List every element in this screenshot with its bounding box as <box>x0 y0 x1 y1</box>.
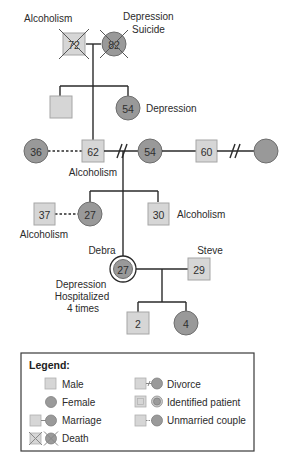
steve-name: Steve <box>197 245 223 256</box>
female-circle-icon <box>46 397 57 408</box>
steve-age: 29 <box>193 264 205 276</box>
debra-label-line3: 4 times <box>67 303 99 314</box>
father-label: Alcoholism <box>69 167 117 178</box>
grandfather-node: 72 <box>59 29 89 59</box>
legend-label-identified-patient: Identified patient <box>167 397 241 408</box>
aunt-age: 54 <box>122 103 134 115</box>
sister-partner-label: Alcoholism <box>20 229 68 240</box>
brother-age: 30 <box>153 209 165 221</box>
father-age: 62 <box>87 146 99 158</box>
genogram-diagram: 72 Alcoholism 82 Depression Suicide 54 D… <box>0 0 289 457</box>
daughter-node: 4 <box>174 311 198 335</box>
mother-node: 54 <box>138 139 162 163</box>
brother-node: 30 <box>148 203 169 225</box>
debra-node-identified-patient: 27 <box>110 256 136 282</box>
legend-label-unmarried-couple: Unmarried couple <box>167 415 246 426</box>
stepfather-node: 60 <box>196 140 217 162</box>
legend: Legend: Male Female Marriage Death <box>21 353 254 451</box>
sister-partner-node: 37 <box>34 203 55 225</box>
son-age: 2 <box>135 318 141 330</box>
father-partner-age: 36 <box>30 146 42 158</box>
father-node: 62 <box>82 140 104 162</box>
debra-label-line1: Depression <box>56 279 107 290</box>
mother-age: 54 <box>144 146 156 158</box>
sister-partner-age: 37 <box>39 209 51 221</box>
sister-node: 27 <box>78 202 102 226</box>
grandmother-label-line2: Suicide <box>132 24 165 35</box>
son-node: 2 <box>127 312 149 334</box>
legend-label-divorce: Divorce <box>167 379 201 390</box>
stepfather-ex-node <box>254 139 278 163</box>
debra-age: 27 <box>117 264 129 276</box>
grandfather-label: Alcoholism <box>24 13 72 24</box>
legend-label-death: Death <box>62 433 89 444</box>
aunt-label: Depression <box>146 103 197 114</box>
grandmother-label-line1: Depression <box>123 11 174 22</box>
male-square-icon <box>45 378 56 389</box>
legend-title: Legend: <box>29 359 70 371</box>
father-partner-node: 36 <box>24 139 48 163</box>
grandfather-age: 72 <box>68 39 80 51</box>
stepfather-age: 60 <box>201 146 213 158</box>
identified-patient-couple: Debra 27 Depression Hospitalized 4 times… <box>55 245 223 335</box>
aunt-node: 54 <box>116 96 140 120</box>
brother-label: Alcoholism <box>177 209 225 220</box>
steve-node: 29 <box>188 258 210 280</box>
grandmother-age: 82 <box>108 39 120 51</box>
legend-label-female: Female <box>62 397 96 408</box>
daughter-age: 4 <box>183 318 189 330</box>
sister-age: 27 <box>84 209 96 221</box>
gen1-couple: 72 Alcoholism 82 Depression Suicide <box>24 11 174 140</box>
debra-label-line2: Hospitalized <box>55 291 109 302</box>
legend-label-marriage: Marriage <box>62 415 102 426</box>
grandmother-node: 82 <box>100 30 128 58</box>
debra-name: Debra <box>88 245 116 256</box>
legend-label-male: Male <box>62 379 84 390</box>
gen2-siblings: 54 Depression <box>50 86 197 120</box>
uncle-node <box>50 96 72 118</box>
